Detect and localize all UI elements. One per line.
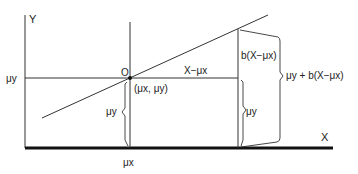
mu-x-tick-label: μx (123, 158, 134, 168)
x-minus-mu-x-label: X−μx (184, 66, 207, 76)
b-term-label: b(X−μx) (241, 51, 277, 61)
diagram-canvas (0, 0, 358, 174)
mean-point-label: (μx, μy) (134, 84, 168, 94)
predicted-label: μy + b(X−μx) (286, 71, 344, 81)
regression-line (42, 15, 268, 118)
x-axis-label: X (321, 132, 328, 143)
y-axis-label: Y (29, 14, 36, 25)
origin-label: O (121, 68, 129, 78)
mu-y-right-label: μy (246, 107, 257, 117)
mu-y-left-label: μy (106, 107, 117, 117)
predicted-brace (240, 30, 283, 147)
mu-y-left-brace (122, 82, 128, 146)
mu-y-tick-label: μy (6, 74, 17, 84)
regression-diagram: Y X O μy μx (μx, μy) X−μx b(X−μx) μy μy … (0, 0, 358, 174)
